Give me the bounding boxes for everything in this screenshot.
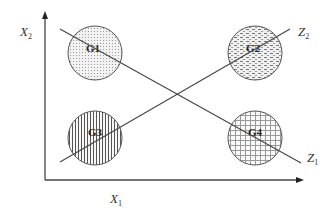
- group-g1-label: G1: [86, 42, 100, 54]
- x-axis-arrow-icon: [296, 177, 304, 183]
- group-g4-label: G4: [248, 126, 263, 138]
- group-g3-label: G3: [88, 126, 103, 138]
- group-g2: G2: [228, 26, 282, 80]
- line-z1-label: Z1: [307, 150, 318, 167]
- group-g3: G3: [68, 111, 122, 165]
- group-g1: G1: [68, 26, 122, 80]
- x-axis: [45, 177, 304, 183]
- y-axis-label: X2: [19, 24, 32, 41]
- x-axis-label: X1: [109, 191, 122, 208]
- line-z2-label: Z2: [298, 24, 309, 41]
- diagram-canvas: G1 G2 G3 G4 X2 X1 Z1 Z2: [0, 0, 335, 211]
- group-g2-label: G2: [246, 42, 261, 54]
- y-axis: [42, 11, 48, 180]
- y-axis-arrow-icon: [42, 11, 48, 19]
